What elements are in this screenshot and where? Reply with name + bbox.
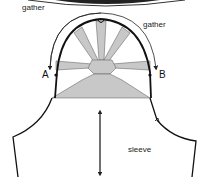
point-b-label: B — [159, 70, 166, 80]
point-b-dot — [148, 73, 151, 76]
sleeve-label: sleeve — [128, 146, 151, 154]
sleeve-left-edge — [13, 98, 52, 177]
shaded-slash-sections — [52, 21, 150, 98]
sleeve-pattern-diagram — [0, 0, 211, 177]
upper-piece-dark — [55, 0, 160, 4]
point-a-dot — [54, 73, 57, 76]
gather-label-top-left: gather — [22, 4, 45, 12]
sleeve-right-edge — [150, 98, 196, 177]
gather-label-right: gather — [143, 21, 166, 29]
point-a-label: A — [42, 70, 49, 80]
